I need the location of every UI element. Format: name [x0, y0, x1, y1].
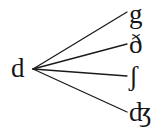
target-node-dezh: ʤ — [129, 99, 152, 126]
target-node-g: g — [129, 1, 143, 28]
target-node-eth: ð — [129, 31, 143, 58]
source-node-d: d — [11, 55, 25, 82]
target-node-esh: ʃ — [129, 63, 138, 90]
phoneme-branching-diagram: d g ð ʃ ʤ — [0, 0, 156, 139]
edge-d-to-g — [33, 12, 127, 69]
edge-d-to-eth — [33, 44, 127, 69]
